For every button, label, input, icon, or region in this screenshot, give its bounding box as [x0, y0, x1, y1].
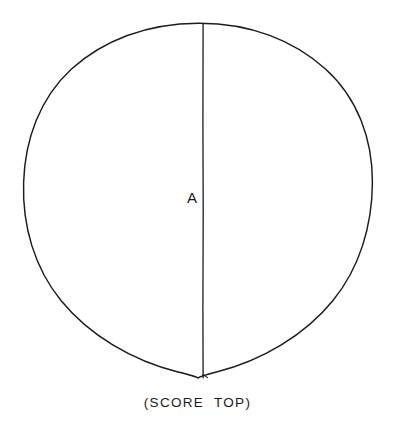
drawing-sheet: A (SCORE TOP)	[0, 0, 395, 439]
score-line-label: A	[184, 190, 200, 205]
figure-caption: (SCORE TOP)	[0, 394, 395, 412]
figure-canvas	[0, 0, 395, 439]
score-line-group	[203, 24, 208, 378]
